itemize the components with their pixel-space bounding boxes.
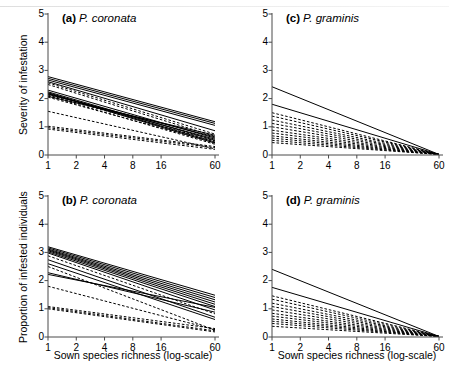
y-tick-label: 0 bbox=[256, 149, 268, 160]
y-tick-label: 1 bbox=[256, 120, 268, 131]
regression-line bbox=[272, 310, 439, 337]
regression-line bbox=[48, 264, 215, 320]
x-tick-label: 2 bbox=[66, 160, 86, 171]
regression-line bbox=[48, 253, 215, 310]
x-tick-label: 1 bbox=[262, 160, 282, 171]
regression-line bbox=[272, 116, 439, 154]
panel-b-species: P. coronata bbox=[77, 194, 137, 206]
regression-line bbox=[48, 250, 215, 302]
regression-line bbox=[272, 87, 439, 155]
regression-line bbox=[48, 83, 215, 134]
y-tick-label: 1 bbox=[32, 302, 44, 313]
x-tick-label: 4 bbox=[319, 160, 339, 171]
y-tick-label: 1 bbox=[32, 120, 44, 131]
regression-line bbox=[48, 85, 215, 137]
x-tick-label: 8 bbox=[347, 160, 367, 171]
panel-b-plot bbox=[48, 196, 218, 341]
regression-line bbox=[272, 133, 439, 154]
panel-d-species: P. graminis bbox=[301, 194, 360, 206]
x-axis-label-right: Sown species richness (log-scale) bbox=[272, 349, 442, 361]
x-tick-label: 16 bbox=[151, 160, 171, 171]
regression-lines bbox=[48, 247, 215, 332]
regression-lines bbox=[272, 269, 439, 336]
regression-line bbox=[272, 313, 439, 336]
y-tick-label: 5 bbox=[256, 190, 268, 201]
regression-lines bbox=[272, 87, 439, 155]
panel-d-label: (d)P. graminis bbox=[286, 194, 360, 206]
panel-c-species: P. graminis bbox=[300, 12, 359, 24]
panel-d-tag: (d) bbox=[286, 194, 301, 206]
panel-d-plot bbox=[272, 196, 442, 341]
x-axis-label-left: Sown species richness (log-scale) bbox=[48, 349, 218, 361]
regression-line bbox=[272, 287, 439, 336]
regression-line bbox=[272, 136, 439, 155]
regression-line bbox=[48, 309, 215, 332]
panel-c-tag: (c) bbox=[286, 12, 300, 24]
x-tick-label: 60 bbox=[429, 160, 449, 171]
x-tick-label: 60 bbox=[205, 160, 225, 171]
regression-line bbox=[272, 299, 439, 336]
y-tick-label: 3 bbox=[32, 64, 44, 75]
scan-artifact-line bbox=[0, 6, 449, 7]
y-tick-label: 3 bbox=[32, 246, 44, 257]
panel-a-tag: (a) bbox=[62, 12, 76, 24]
panel-a-plot bbox=[48, 14, 218, 159]
y-tick-label: 5 bbox=[256, 8, 268, 19]
regression-line bbox=[272, 138, 439, 154]
y-tick-label: 4 bbox=[256, 36, 268, 47]
x-tick-label: 8 bbox=[123, 160, 143, 171]
y-tick-label: 0 bbox=[32, 149, 44, 160]
regression-lines bbox=[48, 77, 215, 150]
y-tick-label: 5 bbox=[32, 190, 44, 201]
panel-c-label: (c)P. graminis bbox=[286, 12, 359, 24]
regression-line bbox=[48, 248, 215, 298]
y-tick-label: 4 bbox=[32, 36, 44, 47]
y-tick-label: 4 bbox=[32, 218, 44, 229]
y-tick-label: 3 bbox=[256, 64, 268, 75]
x-tick-label: 4 bbox=[95, 160, 115, 171]
panel-b-tag: (b) bbox=[62, 194, 77, 206]
panel-c-plot bbox=[272, 14, 442, 159]
regression-line bbox=[48, 93, 215, 142]
regression-line bbox=[48, 256, 215, 314]
y-tick-label: 2 bbox=[256, 92, 268, 103]
x-tick-label: 1 bbox=[38, 160, 58, 171]
axes bbox=[269, 13, 444, 159]
regression-line bbox=[272, 307, 439, 337]
regression-line bbox=[48, 307, 215, 329]
y-tick-label: 5 bbox=[32, 8, 44, 19]
regression-line bbox=[48, 251, 215, 305]
regression-line bbox=[48, 82, 215, 131]
regression-line bbox=[272, 123, 439, 154]
y-tick-label: 2 bbox=[256, 274, 268, 285]
x-tick-label: 16 bbox=[375, 160, 395, 171]
y-tick-label: 4 bbox=[256, 218, 268, 229]
y-tick-label: 3 bbox=[256, 246, 268, 257]
y-tick-label: 2 bbox=[32, 92, 44, 103]
figure-canvas: (a)P. coronata 01234512481660 (b)P. coro… bbox=[0, 0, 449, 368]
panel-a-species: P. coronata bbox=[76, 12, 136, 24]
panel-b-label: (b)P. coronata bbox=[62, 194, 137, 206]
y-axis-label-bottom-left: Proportion of infested individuals bbox=[17, 191, 29, 343]
x-tick-label: 2 bbox=[290, 160, 310, 171]
regression-line bbox=[272, 269, 439, 336]
y-tick-label: 0 bbox=[256, 331, 268, 342]
y-tick-label: 1 bbox=[256, 302, 268, 313]
y-tick-label: 0 bbox=[32, 331, 44, 342]
y-axis-label-top-left: Severity of infestation bbox=[17, 34, 29, 134]
regression-line bbox=[272, 104, 439, 154]
y-tick-label: 2 bbox=[32, 274, 44, 285]
panel-a-label: (a)P. coronata bbox=[62, 12, 136, 24]
